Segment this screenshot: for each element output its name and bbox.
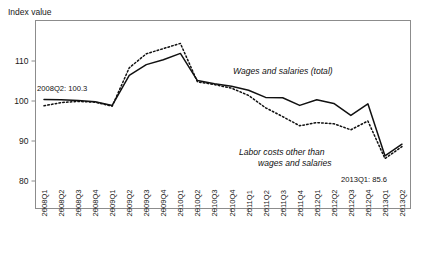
y-tick-label: 80	[19, 176, 29, 186]
x-axis-labels: 2008Q12008Q22008Q32008Q42009Q12009Q22009…	[40, 189, 407, 216]
series-label-wages: Wages and salaries (total)	[233, 66, 333, 76]
x-tick-label: 2012Q4	[364, 189, 373, 216]
y-axis-ticks: 8090100110	[14, 56, 35, 186]
end-value-annotation: 2013Q1: 85.6	[341, 175, 387, 184]
x-tick-label: 2008Q1	[40, 189, 49, 216]
x-tick-label: 2011Q1	[245, 190, 254, 216]
series-line-wages-salaries	[44, 53, 402, 155]
y-tick-label: 90	[19, 136, 29, 146]
series-label-other-line1: Labor costs other than	[239, 147, 325, 157]
x-tick-label: 2011Q2	[262, 190, 271, 216]
x-tick-label: 2012Q2	[330, 189, 339, 216]
x-tick-label: 2008Q2	[57, 189, 66, 216]
x-tick-label: 2012Q1	[313, 189, 322, 216]
start-value-annotation: 2008Q2: 100.3	[37, 84, 87, 93]
x-tick-label: 2010Q1	[176, 189, 185, 216]
x-tick-label: 2009Q3	[142, 189, 151, 216]
x-tick-label: 2008Q4	[91, 189, 100, 216]
x-tick-label: 2008Q3	[74, 189, 83, 216]
x-tick-label: 2011Q3	[279, 190, 288, 216]
x-tick-label: 2009Q1	[108, 189, 117, 216]
x-tick-label: 2013Q1	[381, 189, 390, 216]
y-tick-label: 100	[14, 96, 28, 106]
x-tick-label: 2009Q4	[159, 189, 168, 216]
y-axis-title: Index value	[8, 7, 52, 17]
x-tick-label: 2010Q2	[193, 189, 202, 216]
series-line-labor-costs-other	[44, 43, 402, 158]
series-label-other-line2: wages and salaries	[258, 158, 332, 168]
x-tick-label: 2013Q2	[398, 189, 407, 216]
x-tick-label: 2011Q4	[296, 190, 305, 216]
x-tick-label: 2010Q3	[210, 189, 219, 216]
x-tick-label: 2009Q2	[125, 189, 134, 216]
chart-container: Index value 8090100110 2008Q12008Q22008Q…	[0, 0, 432, 275]
x-tick-label: 2010Q4	[228, 189, 237, 216]
x-tick-label: 2012Q3	[347, 189, 356, 216]
y-tick-label: 110	[15, 56, 29, 66]
line-chart: Index value 8090100110 2008Q12008Q22008Q…	[0, 0, 432, 275]
